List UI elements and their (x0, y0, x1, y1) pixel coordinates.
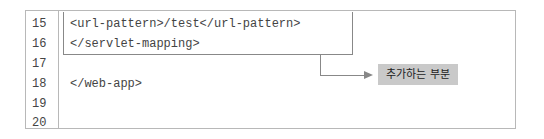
annotation-label: 추가하는 부분 (378, 64, 458, 85)
line-number: 19 (32, 94, 52, 114)
callout-arrow-vertical (320, 55, 321, 75)
line-number: 20 (32, 113, 52, 133)
gutter-divider (58, 10, 59, 129)
code-line: </web-app> (70, 74, 142, 94)
callout-arrow-horizontal (320, 75, 366, 76)
highlight-bracket (63, 12, 353, 55)
line-number: 17 (32, 54, 52, 74)
line-number: 18 (32, 74, 52, 94)
line-number: 16 (32, 34, 52, 54)
line-number: 15 (32, 14, 52, 34)
arrow-right-icon (364, 71, 373, 79)
